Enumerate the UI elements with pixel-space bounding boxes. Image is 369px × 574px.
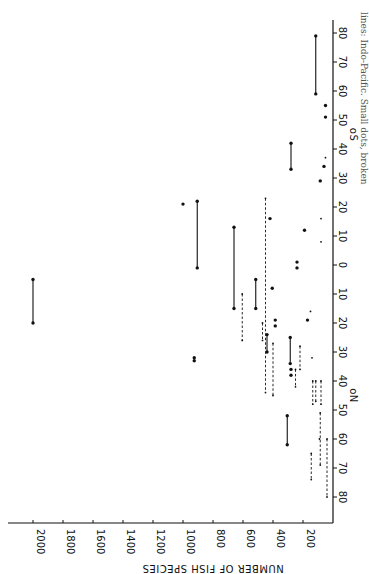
range-endpoint	[295, 369, 297, 371]
range-endpoint	[241, 340, 243, 342]
range-endpoint	[326, 438, 328, 440]
latitude-tick-label: 70	[337, 56, 348, 69]
species-tick-label: 600	[245, 529, 256, 548]
range-endpoint	[254, 307, 257, 310]
small-dot	[325, 157, 327, 159]
range-endpoint	[262, 322, 264, 324]
latitude-tick-label: 10	[337, 230, 348, 243]
range-endpoint	[320, 403, 322, 405]
range-endpoint	[272, 342, 274, 344]
large-dot	[193, 359, 196, 362]
small-dot	[320, 218, 322, 220]
range-endpoint	[299, 369, 301, 371]
latitude-tick-label: 30	[337, 172, 348, 185]
range-endpoint	[326, 496, 328, 498]
species-axis-title: NUMBER OF FISH SPECIES	[142, 563, 284, 574]
large-dot	[319, 179, 322, 182]
latitude-tick-label: 80	[337, 491, 348, 504]
species-tick-label: 1000	[185, 529, 196, 554]
range-endpoint	[315, 400, 317, 402]
range-endpoint	[320, 380, 322, 382]
range-endpoint	[295, 386, 297, 388]
large-dot	[295, 266, 298, 269]
range-endpoint	[31, 321, 34, 324]
range-endpoint	[272, 395, 274, 397]
range-endpoint	[196, 266, 199, 269]
labels: 200400600800100012001400160018002000NUMB…	[35, 12, 369, 574]
species-tick-label: 800	[215, 529, 226, 548]
latitude-tick-label: 50	[337, 404, 348, 417]
latitude-tick-label: 80	[337, 27, 348, 40]
range-endpoint	[232, 307, 235, 310]
species-tick-label: 400	[275, 529, 286, 548]
range-endpoint	[289, 168, 292, 171]
large-dot	[324, 104, 327, 107]
latitude-tick-label: 20	[337, 201, 348, 214]
range-endpoint	[232, 226, 235, 229]
south-label: oS	[348, 128, 359, 141]
range-endpoint	[319, 464, 321, 466]
latitude-tick-label: 10	[337, 288, 348, 301]
latitude-tick-label: 30	[337, 346, 348, 359]
large-dot	[324, 115, 327, 118]
range-endpoint	[265, 392, 267, 394]
small-dot	[319, 438, 321, 440]
latitude-tick-label: 40	[337, 143, 348, 156]
latitude-tick-label: 20	[337, 317, 348, 330]
range-endpoint	[265, 197, 267, 199]
small-dot	[320, 241, 322, 243]
latitude-tick-label: 60	[337, 433, 348, 446]
large-dot	[322, 165, 325, 168]
range-endpoint	[310, 479, 312, 481]
range-endpoint	[241, 293, 243, 295]
large-dot	[268, 217, 271, 220]
range-endpoint	[286, 414, 289, 417]
range-endpoint	[262, 340, 264, 342]
range-endpoint	[289, 336, 292, 339]
range-endpoint	[312, 380, 314, 382]
range-endpoint	[315, 380, 317, 382]
range-endpoint	[314, 92, 317, 95]
large-dot	[274, 318, 277, 321]
large-dot	[289, 374, 292, 377]
latitude-tick-label: 40	[337, 375, 348, 388]
axes	[8, 20, 337, 523]
figure-caption: lines: Indo-Pacific. Small dots, broken	[359, 12, 369, 185]
large-dot	[303, 229, 306, 232]
large-dot	[271, 287, 274, 290]
species-tick-label: 1600	[95, 529, 106, 554]
range-endpoint	[319, 412, 321, 414]
latitude-tick-label: 60	[337, 85, 348, 98]
range-endpoint	[31, 278, 34, 281]
large-dot	[295, 260, 298, 263]
range-endpoint	[299, 345, 301, 347]
fish-species-latitude-chart: 200400600800100012001400160018002000NUMB…	[0, 0, 369, 574]
small-dot	[310, 311, 312, 313]
species-tick-label: 2000	[35, 529, 46, 554]
latitude-tick-label: 70	[337, 462, 348, 475]
range-endpoint	[314, 34, 317, 37]
small-dot	[311, 357, 313, 359]
species-tick-label: 1200	[155, 529, 166, 554]
range-endpoint	[254, 278, 257, 281]
range-endpoint	[289, 362, 292, 365]
species-tick-label: 200	[305, 529, 316, 548]
large-dot	[181, 202, 184, 205]
large-dot	[306, 318, 309, 321]
species-tick-label: 1400	[125, 529, 136, 554]
north-label: oN	[348, 388, 359, 403]
large-dot	[193, 356, 196, 359]
data-layer	[31, 34, 328, 498]
range-endpoint	[286, 443, 289, 446]
latitude-tick-label: 0	[337, 262, 348, 268]
latitude-tick-label: 50	[337, 114, 348, 127]
species-tick-label: 1800	[65, 529, 76, 554]
range-endpoint	[310, 453, 312, 455]
range-endpoint	[196, 200, 199, 203]
large-dot	[289, 368, 292, 371]
large-dot	[274, 324, 277, 327]
range-endpoint	[312, 403, 314, 405]
range-endpoint	[289, 142, 292, 145]
